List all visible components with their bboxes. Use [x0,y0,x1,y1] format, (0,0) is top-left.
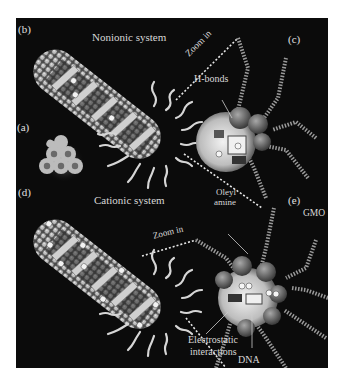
cationic-system-title: Cationic system [94,195,165,206]
oleyl-amine-label-line2: amine [214,198,236,207]
figure-panel: (b) Nonionic system (c) Zoom in H-bonds … [16,18,328,368]
dna-label: DNA [238,355,260,365]
h-bonds-label: H-bonds [194,74,228,84]
nonionic-rod [24,41,169,168]
nonionic-system-title: Nonionic system [92,32,166,43]
electrostatic-label-line2: interactions [190,347,237,357]
cationic-rod [24,211,169,338]
illustration-canvas [16,18,328,368]
panel-label-c: (c) [288,34,300,45]
gmo-label: GMO [303,209,325,219]
panel-label-e: (e) [288,195,300,206]
panel-label-b: (b) [18,24,31,35]
panel-label-a: (a) [17,122,29,133]
electrostatic-label-line1: Electrostatic [188,335,238,345]
panel-label-d: (d) [18,187,31,198]
hexosome-particle [39,135,84,182]
oleyl-amine-label-line1: Oleyl [216,188,236,197]
